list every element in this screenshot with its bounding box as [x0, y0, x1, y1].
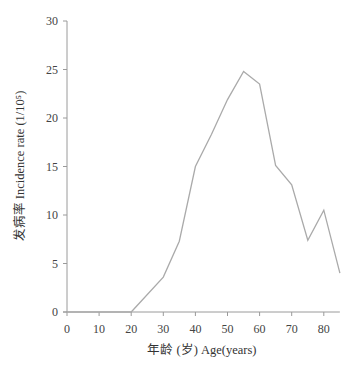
x-axis: 01020304050607080: [63, 312, 340, 336]
x-tick-label: 30: [157, 322, 169, 336]
y-tick-label: 0: [52, 305, 58, 319]
x-tick-label: 60: [254, 322, 266, 336]
x-tick-label: 20: [125, 322, 137, 336]
incidence-line-chart: 051015202530 01020304050607080 年龄 (岁) Ag…: [0, 0, 358, 375]
y-axis: 051015202530: [46, 14, 67, 319]
y-tick-label: 10: [46, 208, 58, 222]
x-tick-label: 70: [286, 322, 298, 336]
x-tick-label: 50: [222, 322, 234, 336]
data-series: [67, 71, 340, 312]
x-tick-label: 10: [93, 322, 105, 336]
x-tick-label: 0: [64, 322, 70, 336]
x-tick-label: 40: [189, 322, 201, 336]
y-tick-label: 25: [46, 63, 58, 77]
y-tick-label: 20: [46, 111, 58, 125]
y-tick-label: 5: [52, 257, 58, 271]
x-tick-label: 80: [318, 322, 330, 336]
y-axis-title: 发病率 Incidence rate (1/10⁵): [12, 91, 27, 242]
x-axis-title: 年龄 (岁) Age(years): [147, 342, 256, 357]
y-tick-label: 30: [46, 14, 58, 28]
incidence-line: [67, 71, 340, 312]
y-tick-label: 15: [46, 160, 58, 174]
